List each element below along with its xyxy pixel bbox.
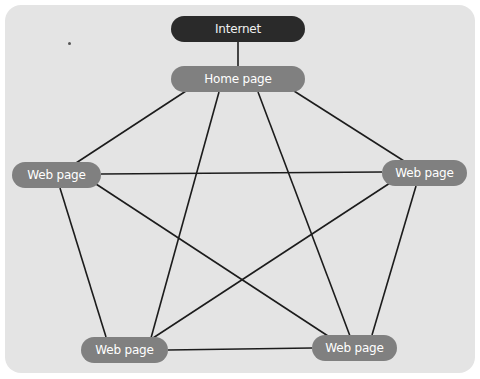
node-web-page-left: Web page <box>12 162 101 188</box>
node-web-page-right: Web page <box>382 160 467 186</box>
edges-layer <box>0 0 480 379</box>
edge-left-bottom-left <box>60 188 106 337</box>
edge-left-right <box>101 172 382 174</box>
edge-home-left <box>76 91 186 163</box>
edge-left-bottom-right <box>96 184 328 336</box>
edge-right-bottom-left <box>153 183 390 338</box>
node-web-page-bottom-right: Web page <box>312 335 397 361</box>
node-home-page: Home page <box>171 66 305 92</box>
edge-bottom-left-bottom-right <box>168 348 312 350</box>
node-web-page-bottom-left: Web page <box>81 337 168 363</box>
edge-home-right <box>294 91 404 161</box>
edge-right-bottom-right <box>372 186 416 335</box>
node-internet: Internet <box>171 16 305 42</box>
